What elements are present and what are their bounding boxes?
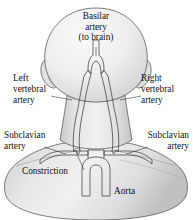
constriction-text: Constriction (22, 166, 68, 176)
label-aorta: Aorta (114, 186, 135, 196)
right-subclavian-line1: Subclavian (148, 130, 190, 140)
right-vertebral-line3: artery (141, 95, 163, 105)
aorta-text: Aorta (114, 186, 135, 196)
basilar-artery-line3: (to brain) (79, 32, 114, 43)
anatomy-diagram-svg: Basilar artery (to brain) Left vertebral… (0, 0, 193, 220)
label-left-subclavian-artery: Subclavian artery (4, 130, 46, 151)
left-subclavian-line1: Subclavian (4, 130, 46, 140)
basilar-artery-line1: Basilar (83, 11, 110, 21)
label-right-vertebral-artery: Right vertebral artery (141, 73, 174, 105)
label-constriction: Constriction (22, 166, 68, 176)
torso-outline (4, 140, 187, 220)
label-left-vertebral-artery: Left vertebral artery (13, 73, 46, 105)
torso-shoulders (4, 140, 187, 220)
left-subclavian-line2: artery (4, 141, 26, 151)
right-vertebral-line2: vertebral (141, 84, 174, 94)
right-vertebral-line1: Right (141, 73, 162, 83)
right-subclavian-line2: artery (167, 141, 189, 151)
label-right-subclavian-artery: Subclavian artery (148, 130, 190, 151)
left-vertebral-line2: vertebral (13, 84, 46, 94)
anatomical-figure: Basilar artery (to brain) Left vertebral… (0, 0, 193, 220)
basilar-artery-line2: artery (85, 22, 107, 32)
left-vertebral-line1: Left (13, 73, 29, 83)
left-vertebral-line3: artery (13, 95, 35, 105)
